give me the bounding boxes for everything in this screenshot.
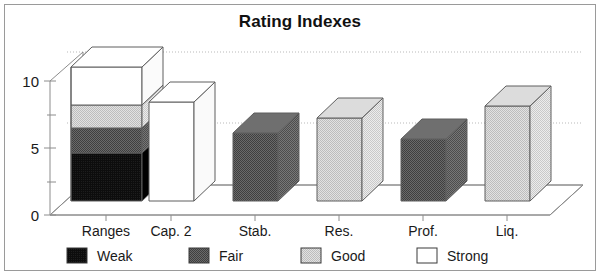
bar-prof[interactable]	[401, 119, 467, 201]
x-label-cap-2: Cap. 2	[150, 223, 191, 239]
legend-swatch-strong	[417, 248, 437, 263]
x-label-prof: Prof.	[408, 223, 438, 239]
y-tick-label-5: 5	[31, 140, 39, 157]
legend-item-fair[interactable]: Fair	[189, 248, 243, 264]
x-label-stab: Stab.	[239, 223, 272, 239]
chart-legend: Weak Fair Good Strong	[67, 248, 488, 264]
chart-frame: Rating Indexes	[4, 4, 596, 271]
x-axis: Ranges Cap. 2 Stab. Res. Prof. Liq.	[82, 215, 518, 239]
chart-plot-area: 10 5 0	[5, 5, 597, 272]
legend-swatch-fair	[189, 248, 209, 263]
legend-swatch-weak	[67, 248, 87, 263]
legend-label-fair: Fair	[219, 248, 243, 264]
x-label-ranges: Ranges	[82, 223, 130, 239]
bar-liq[interactable]	[485, 86, 551, 201]
y-tick-label-0: 0	[31, 207, 39, 224]
bar-res[interactable]	[317, 98, 383, 201]
x-label-res: Res.	[325, 223, 354, 239]
legend-label-weak: Weak	[97, 248, 134, 264]
legend-swatch-good	[301, 248, 321, 263]
legend-item-strong[interactable]: Strong	[417, 248, 488, 264]
legend-label-good: Good	[331, 248, 365, 264]
bar-stab[interactable]	[233, 113, 299, 201]
legend-label-strong: Strong	[447, 248, 488, 264]
bar-segment-strong[interactable]	[71, 47, 163, 105]
y-tick-label-10: 10	[22, 73, 39, 90]
bar-cap-2[interactable]	[149, 82, 215, 201]
x-label-liq: Liq.	[496, 223, 519, 239]
legend-item-good[interactable]: Good	[301, 248, 365, 264]
legend-item-weak[interactable]: Weak	[67, 248, 134, 264]
